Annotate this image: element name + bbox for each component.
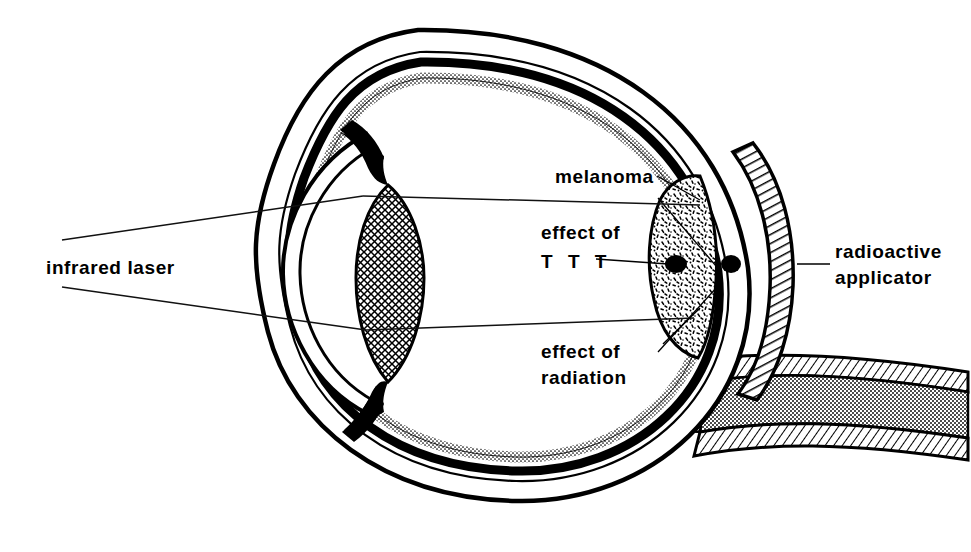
- label-effect-of-radiation-line2: radiation: [541, 367, 627, 388]
- label-applicator: applicator: [835, 267, 932, 288]
- eye-treatment-figure: infrared laser melanoma effect of T T T …: [0, 0, 971, 552]
- ttt-spot-right: [721, 255, 741, 273]
- label-infrared-laser: infrared laser: [46, 257, 175, 278]
- label-melanoma: melanoma: [555, 166, 654, 187]
- label-effect-of-ttt-line1: effect of: [541, 222, 620, 243]
- ttt-spot-left: [665, 255, 687, 273]
- label-ttt: T T T: [541, 251, 611, 272]
- label-effect-of-radiation-line1: effect of: [541, 341, 620, 362]
- eye-diagram-svg: infrared laser melanoma effect of T T T …: [0, 0, 971, 552]
- label-radioactive: radioactive: [835, 241, 942, 262]
